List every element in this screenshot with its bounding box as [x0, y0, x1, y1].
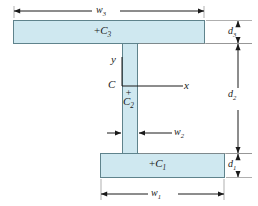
dimension-label-w1: w1 [151, 187, 161, 200]
figure-canvas: w3 +C3 d3 y C x +C2 d2 w2 +C1 d1 w1 [0, 0, 258, 206]
shape-label-top-flange: +C3 [94, 24, 111, 39]
shape-label-bottom-flange: +C1 [149, 157, 166, 172]
dimension-label-w2: w2 [174, 126, 184, 139]
dimension-label-d1: d1 [228, 158, 236, 171]
dimension-label-w3: w3 [96, 4, 106, 17]
axis-label-y: y [111, 53, 116, 65]
shape-label-web: +C2 [123, 88, 134, 111]
axis-label-x: x [184, 79, 189, 91]
dimension-label-d3: d3 [228, 25, 236, 38]
section-shapes [14, 21, 225, 178]
axis-origin-label-c: C [108, 78, 115, 90]
dimension-label-d2: d2 [228, 88, 236, 101]
